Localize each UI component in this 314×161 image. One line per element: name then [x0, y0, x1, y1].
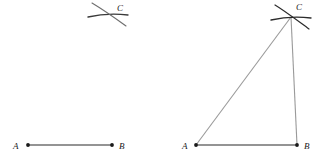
point-a-left [26, 143, 30, 147]
label-b-left: B [119, 141, 125, 151]
point-b-right [295, 143, 299, 147]
label-a-left: A [12, 141, 19, 151]
label-b-right: B [304, 141, 310, 151]
label-c-left: C [117, 3, 124, 13]
segment-bc-right [291, 17, 297, 145]
segment-ac-right [196, 17, 291, 145]
label-c-right: C [296, 2, 303, 12]
panel-step-2-triangle-complete: A B C [181, 2, 311, 151]
arc-from-a-icon [88, 14, 128, 17]
point-a-right [194, 143, 198, 147]
label-a-right: A [181, 141, 188, 151]
geometric-construction-figure: A B C A B C [0, 0, 314, 161]
point-b-left [110, 143, 114, 147]
panel-step-1-arcs-only: A B C [12, 3, 128, 151]
